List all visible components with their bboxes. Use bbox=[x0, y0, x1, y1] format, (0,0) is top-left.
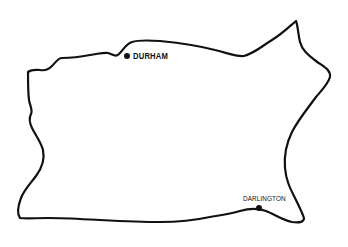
county-boundary-outline bbox=[18, 21, 330, 222]
darlington-town-marker bbox=[256, 205, 262, 211]
darlington-label: DARLINGTON bbox=[243, 195, 286, 203]
county-map bbox=[0, 0, 348, 247]
durham-town-marker bbox=[124, 53, 130, 59]
durham-label: DURHAM bbox=[133, 52, 168, 61]
